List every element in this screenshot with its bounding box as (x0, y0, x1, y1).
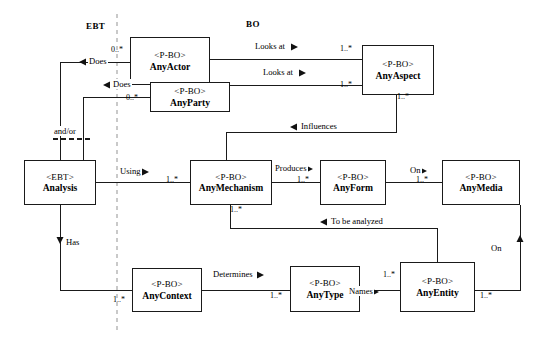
rel-label-looks-at-party: Looks at (262, 67, 294, 77)
class-diagram: EBT BO <P-BO> AnyActor <P-BO> AnyParty <… (0, 0, 542, 342)
node-any-actor[interactable]: <P-BO> AnyActor (130, 37, 210, 85)
section-label-bo: BO (246, 19, 260, 29)
multiplicity-context-left: 1..* (113, 295, 125, 304)
multiplicity-type-left: 1..* (270, 291, 282, 300)
node-title: AnyForm (333, 182, 373, 193)
multiplicity-aspect-top: 1..* (340, 44, 352, 53)
node-stereotype: <P-BO> (337, 172, 368, 183)
node-stereotype: <P-BO> (215, 172, 246, 183)
node-analysis[interactable]: <EBT> Analysis (24, 160, 96, 205)
rel-label-on-entity: On (490, 243, 503, 253)
node-any-context[interactable]: <P-BO> AnyContext (132, 268, 202, 312)
multiplicity-mechanism-left: 1..* (166, 175, 178, 184)
multiplicity-party-left: 0..* (126, 93, 138, 102)
rel-label-determines: Determines (212, 269, 254, 279)
node-any-form[interactable]: <P-BO> AnyForm (320, 160, 386, 205)
node-stereotype: <P-BO> (465, 172, 496, 183)
rel-label-does-actor: Does (88, 56, 108, 66)
node-stereotype: <P-BO> (174, 86, 205, 97)
node-any-entity[interactable]: <P-BO> AnyEntity (400, 262, 475, 312)
section-label-ebt: EBT (86, 21, 105, 31)
node-stereotype: <P-BO> (382, 59, 413, 70)
multiplicity-mechanism-bottom: 1..* (230, 205, 242, 214)
node-stereotype: <P-BO> (422, 276, 453, 287)
rel-label-and-or: and/or (53, 126, 77, 136)
node-title: AnyAspect (376, 70, 421, 81)
multiplicity-media-left: 1..* (416, 175, 428, 184)
multiplicity-actor-left: 0..* (111, 45, 123, 54)
node-title: AnyEntity (416, 287, 459, 298)
rel-label-has: Has (65, 237, 80, 247)
rel-label-influences: Influences (300, 121, 338, 131)
node-title: Analysis (43, 182, 78, 193)
node-title: AnyActor (150, 61, 191, 72)
multiplicity-aspect-down: 1..* (397, 92, 409, 101)
rel-label-to-be-analyzed: To be analyzed (330, 216, 384, 226)
rel-label-on-media: On (409, 165, 422, 175)
multiplicity-entity-top: 1..* (383, 270, 395, 279)
node-stereotype: <P-BO> (154, 50, 185, 61)
node-stereotype: <P-BO> (309, 278, 340, 289)
multiplicity-aspect-bottom: 1..* (340, 80, 352, 89)
node-stereotype: <EBT> (46, 172, 74, 183)
node-title: AnyMechanism (199, 182, 264, 193)
node-any-party[interactable]: <P-BO> AnyParty (150, 82, 230, 112)
rel-label-names: Names (348, 286, 374, 296)
multiplicity-entity-right: 1..* (480, 291, 492, 300)
multiplicity-form-left: 1..* (297, 175, 309, 184)
node-title: AnyParty (170, 97, 210, 108)
rel-label-using: Using (119, 166, 142, 176)
node-any-media[interactable]: <P-BO> AnyMedia (442, 160, 520, 205)
node-any-mechanism[interactable]: <P-BO> AnyMechanism (190, 160, 272, 205)
node-stereotype: <P-BO> (151, 279, 182, 290)
rel-label-looks-at-actor: Looks at (254, 41, 286, 51)
node-any-aspect[interactable]: <P-BO> AnyAspect (362, 45, 434, 95)
node-title: AnyType (306, 289, 343, 300)
node-title: AnyContext (142, 290, 192, 301)
rel-label-does-party: Does (112, 79, 132, 89)
rel-label-produces: Produces (274, 163, 308, 173)
node-title: AnyMedia (459, 182, 502, 193)
